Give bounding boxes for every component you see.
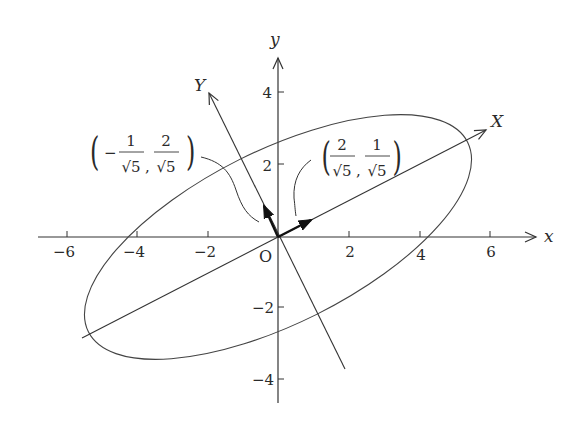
numerator-1: 1 bbox=[126, 132, 136, 150]
right-paren: ) bbox=[392, 132, 401, 179]
origin-label: O bbox=[259, 247, 272, 266]
left-paren: ( bbox=[90, 127, 99, 174]
minus-sign: − bbox=[104, 144, 117, 162]
y-axis-label: y bbox=[269, 29, 280, 49]
x-axis-label: x bbox=[544, 226, 554, 246]
denominator-2: √5 bbox=[367, 162, 386, 180]
y-tick-label: 2 bbox=[262, 157, 272, 175]
x-axis: −6 −4 −2 2 4 6 x bbox=[38, 226, 554, 264]
left-paren: ( bbox=[322, 132, 331, 179]
y-tick-label: −4 bbox=[252, 371, 274, 389]
unit-vector-x bbox=[278, 220, 311, 237]
rotated-x-axis-label: X bbox=[489, 111, 504, 131]
denominator-1: √5 bbox=[332, 162, 351, 180]
rotated-x-axis: X bbox=[82, 111, 504, 338]
vector-label-x: ( 2 √5 , 1 √5 ) bbox=[322, 132, 402, 180]
y-tick-label: −2 bbox=[252, 299, 274, 317]
rotated-y-axis-label: Y bbox=[194, 75, 207, 95]
right-paren: ) bbox=[186, 127, 195, 174]
numerator-2: 1 bbox=[372, 136, 382, 154]
x-tick-label: 6 bbox=[486, 243, 496, 261]
denominator-1: √5 bbox=[121, 158, 140, 176]
x-tick-label: 2 bbox=[345, 243, 355, 261]
leader-line-right bbox=[294, 160, 311, 216]
x-tick-label: 4 bbox=[416, 246, 426, 264]
leader-line-left bbox=[201, 157, 259, 222]
y-tick-label: 4 bbox=[262, 84, 272, 102]
rotated-y-axis: Y bbox=[194, 75, 345, 369]
x-tick-label: −4 bbox=[123, 243, 145, 261]
numerator-1: 2 bbox=[337, 136, 347, 154]
unit-vector-y bbox=[264, 206, 278, 237]
vector-label-y: ( − 1 √5 , 2 √5 ) bbox=[90, 127, 195, 176]
denominator-2: √5 bbox=[156, 158, 175, 176]
numerator-2: 2 bbox=[161, 132, 171, 150]
diagram-canvas: −6 −4 −2 2 4 6 x 4 2 −2 −4 y O X bbox=[0, 0, 584, 427]
separator: , bbox=[145, 158, 150, 176]
x-tick-label: −6 bbox=[53, 243, 75, 261]
x-tick-label: −2 bbox=[194, 243, 216, 261]
separator: , bbox=[356, 162, 361, 180]
